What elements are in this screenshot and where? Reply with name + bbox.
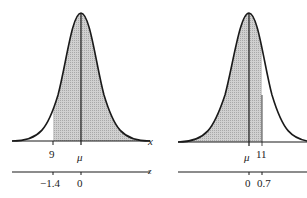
left-x-axis-label: x [148,136,153,147]
right-z-tick-0: 0 [245,178,251,189]
right-z-tick-0.7: 0.7 [257,178,271,189]
left-x-tick-9: 9 [49,149,55,160]
left-z-tick-0: 0 [77,178,83,189]
right-x-tick-mu: μ [244,152,250,163]
left-x-tick-mu: μ [77,152,83,163]
normal-curves-figure [0,0,307,198]
left-z-axis-label: z [148,167,152,176]
left-z-tick-neg1.4: −1.4 [40,178,60,189]
right-shaded-area [178,13,307,142]
right-x-tick-11: 11 [256,149,267,160]
right-panel [178,13,307,175]
